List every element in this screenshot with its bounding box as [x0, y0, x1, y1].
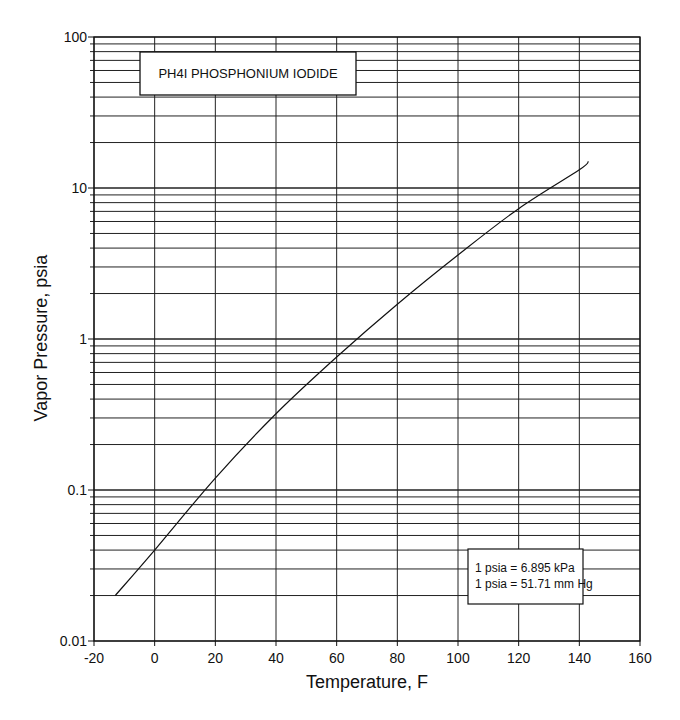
x-tick-label: 160 [628, 650, 652, 666]
y-axis-ticks: 0.010.1110100 [60, 29, 94, 649]
chart-title: PH4I PHOSPHONIUM IODIDE [158, 66, 337, 81]
x-tick-label: 40 [268, 650, 284, 666]
x-axis-ticks: -20020406080100120140160 [84, 641, 652, 666]
x-tick-label: 0 [151, 650, 159, 666]
y-tick-label: 0.1 [68, 482, 88, 498]
vapor-pressure-chart: -20020406080100120140160 0.010.1110100 P… [0, 0, 680, 720]
conversion-box: 1 psia = 6.895 kPa 1 psia = 51.71 mm Hg [468, 549, 593, 604]
x-tick-label: 80 [390, 650, 406, 666]
y-axis-title: Vapor Pressure, psia [31, 254, 51, 422]
y-tick-label: 100 [64, 29, 88, 45]
x-tick-label: 20 [208, 650, 224, 666]
x-tick-label: 140 [568, 650, 592, 666]
conversion-mmhg: 1 psia = 51.71 mm Hg [475, 577, 593, 591]
x-tick-label: 60 [329, 650, 345, 666]
conversion-kpa: 1 psia = 6.895 kPa [475, 561, 575, 575]
x-tick-label: 100 [446, 650, 470, 666]
title-box: PH4I PHOSPHONIUM IODIDE [140, 52, 356, 95]
y-tick-label: 10 [71, 180, 87, 196]
y-tick-label: 0.01 [60, 633, 87, 649]
y-tick-label: 1 [79, 331, 87, 347]
x-tick-label: -20 [84, 650, 104, 666]
x-axis-title: Temperature, F [306, 672, 428, 692]
vapor-pressure-curve [115, 161, 588, 595]
x-tick-label: 120 [507, 650, 531, 666]
